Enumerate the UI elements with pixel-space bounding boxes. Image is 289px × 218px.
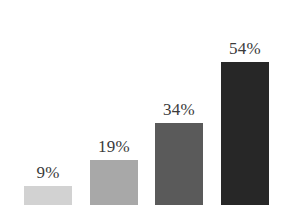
bar-group: 19% (90, 160, 138, 205)
bar-value-label: 9% (36, 163, 59, 182)
bar (24, 186, 72, 205)
bar-group: 34% (155, 123, 203, 205)
bar (221, 62, 269, 205)
plot-area: 9% 19% 34% 54% (0, 0, 289, 218)
bar-value-label: 19% (98, 137, 130, 156)
bar-value-label: 34% (163, 100, 195, 119)
bar (90, 160, 138, 205)
bar-group: 9% (24, 186, 72, 205)
bar-group: 54% (221, 62, 269, 205)
bar (155, 123, 203, 205)
bar-value-label: 54% (229, 39, 261, 58)
bar-chart: 9% 19% 34% 54% (0, 0, 289, 218)
